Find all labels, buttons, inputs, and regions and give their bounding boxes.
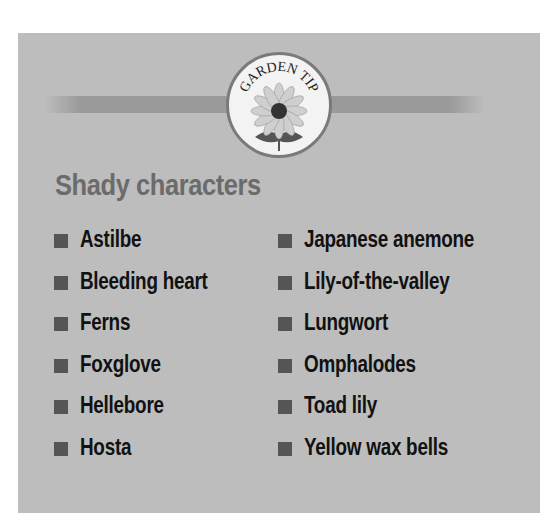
list-item: Ferns — [54, 309, 236, 351]
plant-name: Foxglove — [80, 351, 161, 378]
square-bullet-icon — [278, 276, 292, 290]
plant-name: Ferns — [80, 309, 130, 336]
square-bullet-icon — [54, 276, 68, 290]
list-item: Foxglove — [54, 351, 236, 393]
list-item: Omphalodes — [278, 351, 511, 393]
list-item: Astilbe — [54, 226, 236, 268]
plant-name: Omphalodes — [304, 351, 416, 378]
plant-name: Hosta — [80, 434, 131, 461]
square-bullet-icon — [278, 317, 292, 331]
plant-name: Yellow wax bells — [304, 434, 448, 461]
square-bullet-icon — [278, 400, 292, 414]
plant-name: Bleeding heart — [80, 268, 208, 295]
list-item: Yellow wax bells — [278, 434, 511, 476]
plant-name: Japanese anemone — [304, 226, 474, 253]
list-item: Japanese anemone — [278, 226, 511, 268]
list-item: Lily-of-the-valley — [278, 268, 511, 310]
plant-name: Lungwort — [304, 309, 388, 336]
plant-list-left: Astilbe Bleeding heart Ferns Foxglove He… — [54, 226, 236, 475]
list-item: Hosta — [54, 434, 236, 476]
plant-list-right: Japanese anemone Lily-of-the-valley Lung… — [278, 226, 511, 475]
square-bullet-icon — [54, 234, 68, 248]
plant-name: Astilbe — [80, 226, 141, 253]
square-bullet-icon — [54, 359, 68, 373]
list-item: Lungwort — [278, 309, 511, 351]
square-bullet-icon — [278, 359, 292, 373]
garden-tip-badge: GARDEN TIP — [226, 52, 332, 158]
square-bullet-icon — [278, 234, 292, 248]
page-title: Shady characters — [55, 168, 261, 202]
flower-icon: GARDEN TIP — [229, 55, 329, 155]
plant-name: Toad lily — [304, 392, 377, 419]
list-item: Bleeding heart — [54, 268, 236, 310]
plant-name: Lily-of-the-valley — [304, 268, 449, 295]
plant-name: Hellebore — [80, 392, 164, 419]
square-bullet-icon — [54, 400, 68, 414]
list-item: Hellebore — [54, 392, 236, 434]
list-item: Toad lily — [278, 392, 511, 434]
square-bullet-icon — [54, 317, 68, 331]
square-bullet-icon — [54, 442, 68, 456]
square-bullet-icon — [278, 442, 292, 456]
